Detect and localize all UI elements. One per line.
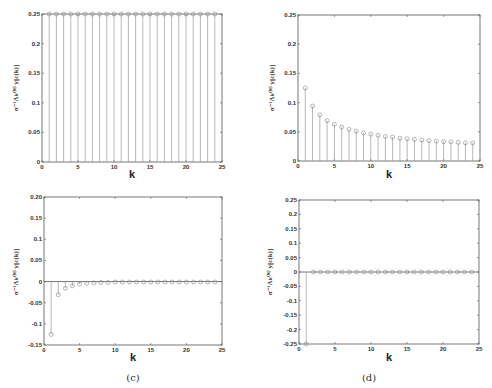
y-tick-label: 0.15: [28, 70, 40, 76]
y-tick-label: 0.15: [285, 226, 297, 232]
y-tick-label: 0.1: [32, 100, 41, 106]
x-tick-label: 15: [404, 346, 411, 352]
y-tick-label: 0.25: [285, 197, 297, 203]
y-axis-label: σ⁻¹Λₖ⁽ᴺ⁾ y[c(k)]: [12, 65, 20, 112]
panel-c: k σ⁻¹Λₖ⁽ᴺ⁾ y[c(k)] (c) 0510152025-0.15-0…: [12, 194, 226, 383]
y-tick-label: 0: [294, 269, 298, 275]
y-tick-label: 0.25: [284, 12, 296, 18]
x-tick-label: 10: [111, 164, 118, 170]
plot-frame: [298, 15, 480, 161]
y-axis-label: σ⁻¹Λₖ⁽ᴺ⁾ y[c(k)]: [12, 249, 20, 296]
x-tick-label: 25: [477, 163, 484, 169]
panel-caption: (d): [362, 372, 376, 383]
plot-frame: [44, 197, 222, 345]
y-tick-label: 0.1: [289, 240, 298, 246]
x-tick-label: 15: [404, 163, 411, 169]
y-tick-label: 0.2: [32, 41, 41, 47]
y-tick-label: 0.1: [34, 236, 43, 242]
y-tick-label: -0.25: [283, 341, 297, 347]
y-tick-label: -0.1: [287, 298, 298, 304]
x-tick-label: 25: [476, 346, 483, 352]
x-tick-label: 5: [76, 164, 80, 170]
y-tick-label: 0: [39, 279, 43, 285]
y-tick-label: 0.15: [30, 215, 42, 221]
x-tick-label: 5: [333, 163, 337, 169]
x-tick-label: 25: [219, 164, 226, 170]
y-tick-label: 0.05: [284, 129, 296, 135]
panel-d: k σ⁻¹Λₖ⁽ᴺ⁾ y[c(k)] (d) 0510152025-0.25-0…: [266, 197, 483, 383]
y-tick-label: 0.05: [285, 255, 297, 261]
y-tick-label: 0.2: [288, 41, 297, 47]
y-tick-label: 0.25: [28, 11, 40, 17]
x-tick-label: 10: [367, 163, 374, 169]
y-tick-label: 0.05: [30, 257, 42, 263]
panel-b: k σ⁻¹Λₖ⁽ᴺ⁾ y[c(k)] 051015202500.050.10.1…: [268, 12, 484, 180]
x-tick-label: 5: [333, 346, 337, 352]
y-tick-label: 0.15: [284, 70, 296, 76]
x-tick-label: 10: [368, 346, 375, 352]
x-tick-label: 20: [183, 164, 190, 170]
x-tick-label: 15: [147, 164, 154, 170]
x-axis-label: k: [130, 351, 137, 363]
y-tick-label: -0.05: [28, 300, 42, 306]
y-tick-label: 0.1: [288, 100, 297, 106]
x-tick-label: 20: [183, 347, 190, 353]
x-axis-label: k: [129, 168, 136, 180]
panel-caption: (c): [126, 372, 140, 383]
x-tick-label: 20: [440, 346, 447, 352]
y-tick-label: -0.2: [287, 327, 298, 333]
y-tick-label: -0.05: [283, 283, 297, 289]
plot-frame: [42, 14, 222, 162]
y-tick-label: 0.20: [30, 194, 42, 200]
x-tick-label: 10: [112, 347, 119, 353]
x-tick-label: 5: [78, 347, 82, 353]
x-tick-label: 20: [440, 163, 447, 169]
panel-a: k σ⁻¹Λₖ⁽ᴺ⁾ y[c(k)] 051015202500.050.10.1…: [12, 11, 226, 180]
x-tick-label: 15: [147, 347, 154, 353]
x-tick-label: 0: [296, 163, 300, 169]
y-axis-label: σ⁻¹Λₖ⁽ᴺ⁾ y[c(k)]: [266, 249, 274, 296]
x-axis-label: k: [386, 168, 393, 180]
x-tick-label: 0: [40, 164, 44, 170]
y-tick-label: 0.05: [28, 129, 40, 135]
x-axis-label: k: [386, 351, 393, 363]
x-tick-label: 25: [219, 347, 226, 353]
figure: k σ⁻¹Λₖ⁽ᴺ⁾ y[c(k)] 051015202500.050.10.1…: [0, 0, 492, 388]
y-tick-label: -0.1: [32, 321, 43, 327]
y-tick-label: -0.15: [283, 312, 297, 318]
x-tick-label: 0: [297, 346, 301, 352]
y-axis-label: σ⁻¹Λₖ⁽ᴺ⁾ y[c(k)]: [268, 65, 276, 112]
y-tick-label: -0.15: [28, 342, 42, 348]
y-tick-label: 0.2: [289, 211, 298, 217]
x-tick-label: 0: [42, 347, 46, 353]
